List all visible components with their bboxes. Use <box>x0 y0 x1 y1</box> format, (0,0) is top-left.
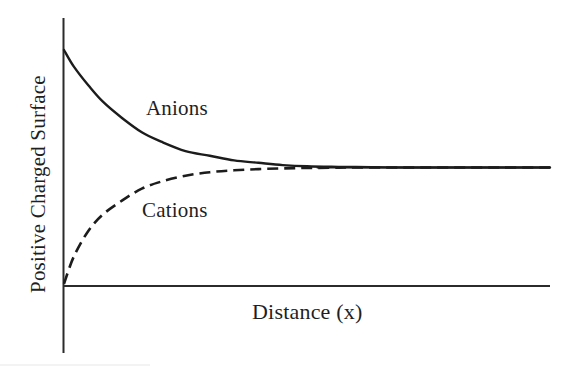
anions-series-label: Anions <box>146 96 208 121</box>
cations-series-label: Cations <box>142 198 208 223</box>
chart-figure: Anions Cations Distance (x) Positive Cha… <box>0 0 571 369</box>
anions-curve <box>64 50 550 168</box>
scan-artifact <box>0 364 150 366</box>
y-axis-title: Positive Charged Surface <box>26 33 52 293</box>
x-axis-title: Distance (x) <box>252 299 363 325</box>
cations-curve <box>64 168 550 284</box>
